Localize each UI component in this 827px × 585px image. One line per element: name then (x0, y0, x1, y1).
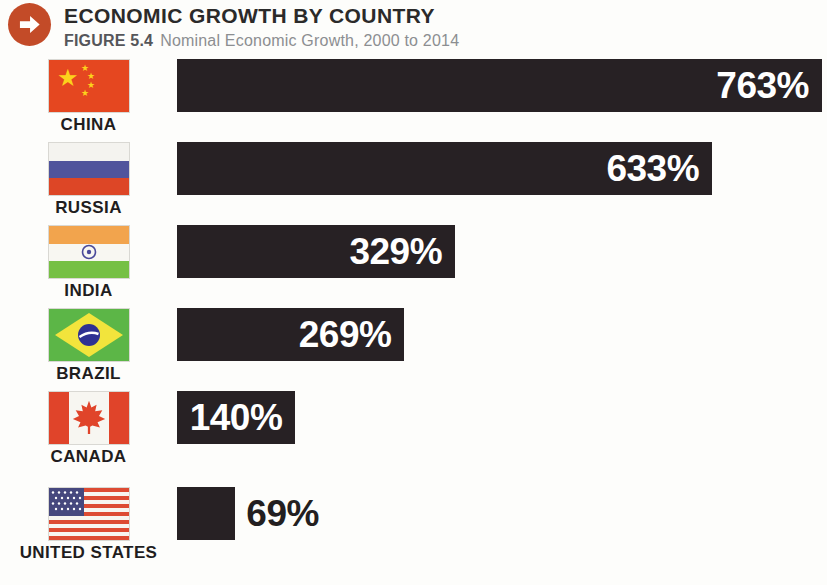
country-label-canada: CANADA (50, 447, 126, 467)
bar-brazil: 269% (177, 308, 404, 361)
arrow-right-circle-icon (8, 3, 51, 46)
bar-track: 140% (177, 391, 822, 444)
bar-india: 329% (177, 225, 455, 278)
united-states-flag-icon (48, 487, 130, 541)
flag-cell: INDIA (0, 225, 177, 301)
flag-cell: ★ ★ ★ ★ ★ CHINA (0, 59, 177, 135)
bar-chart: ★ ★ ★ ★ ★ CHINA 763% (0, 59, 827, 577)
russia-flag-icon (48, 142, 130, 196)
bar-track: 69% (177, 487, 822, 540)
india-flag-icon (48, 225, 130, 279)
bar-track: 329% (177, 225, 822, 278)
figure-caption: Nominal Economic Growth, 2000 to 2014 (160, 32, 459, 49)
country-label-russia: RUSSIA (55, 198, 122, 218)
header-text: ECONOMIC GROWTH BY COUNTRY FIGURE 5.4Nom… (64, 3, 459, 50)
bar-china: 763% (177, 59, 822, 112)
arrow-right-glyph (16, 11, 43, 38)
country-label-india: INDIA (64, 281, 112, 301)
country-label-china: CHINA (61, 115, 117, 135)
infographic-page: ECONOMIC GROWTH BY COUNTRY FIGURE 5.4Nom… (0, 0, 827, 585)
bar-track: 269% (177, 308, 822, 361)
chart-row-united-states: UNITED STATES 69% (0, 487, 827, 577)
chart-row-brazil: BRAZIL 269% (0, 308, 827, 391)
flag-cell: BRAZIL (0, 308, 177, 384)
chart-row-russia: RUSSIA 633% (0, 142, 827, 225)
country-label-united-states: UNITED STATES (20, 543, 158, 563)
svg-text:★: ★ (81, 88, 89, 98)
bar-value-india: 329% (349, 231, 455, 273)
bar-value-united-states: 69% (235, 493, 319, 535)
bar-canada: 140% (177, 391, 295, 444)
chart-header: ECONOMIC GROWTH BY COUNTRY FIGURE 5.4Nom… (0, 0, 827, 50)
flag-cell: CANADA (0, 391, 177, 467)
bar-russia: 633% (177, 142, 712, 195)
bar-track: 633% (177, 142, 822, 195)
chart-row-china: ★ ★ ★ ★ ★ CHINA 763% (0, 59, 827, 142)
figure-subtitle: FIGURE 5.4Nominal Economic Growth, 2000 … (64, 32, 459, 50)
flag-cell: RUSSIA (0, 142, 177, 218)
bar-value-russia: 633% (606, 148, 712, 190)
bar-value-canada: 140% (190, 397, 296, 439)
bar-track: 763% (177, 59, 822, 112)
svg-text:★: ★ (57, 64, 79, 92)
page-title: ECONOMIC GROWTH BY COUNTRY (64, 4, 459, 28)
brazil-flag-icon (48, 308, 130, 362)
bar-value-brazil: 269% (299, 314, 405, 356)
china-flag-icon: ★ ★ ★ ★ ★ (48, 59, 130, 113)
chart-row-india: INDIA 329% (0, 225, 827, 308)
bar-united-states (177, 487, 235, 540)
country-label-brazil: BRAZIL (56, 364, 121, 384)
figure-number: FIGURE 5.4 (64, 32, 153, 49)
canada-flag-icon (48, 391, 130, 445)
flag-cell: UNITED STATES (0, 487, 177, 563)
chart-row-canada: CANADA 140% (0, 391, 827, 474)
bar-value-china: 763% (716, 65, 822, 107)
